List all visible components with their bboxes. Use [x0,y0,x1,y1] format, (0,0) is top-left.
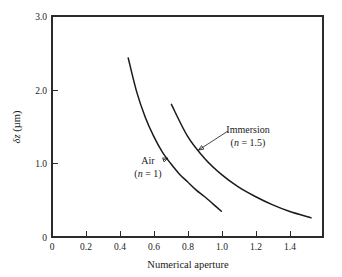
x-tick-label-2: 0.4 [114,242,126,252]
y-axis-ticks [52,16,58,237]
air-annotation-sublabel: (n = 1) [134,168,161,180]
x-tick-label-6: 1.2 [250,242,262,252]
air-annotation: Air (n = 1) [134,155,161,180]
y-tick-label-2: 2.0 [35,86,47,96]
y-axis-title: δz (µm) [11,110,23,143]
x-tick-label-3: 0.6 [148,242,160,252]
x-tick-label-5: 1.0 [216,242,228,252]
svg-text:δz (µm): δz (µm) [11,110,23,143]
x-tick-label-4: 0.8 [182,242,194,252]
plot-frame [52,16,323,237]
x-axis-title: Numerical aperture [147,259,229,270]
x-axis-ticks [52,231,290,237]
y-axis-title-unit: (µm) [11,110,23,134]
y-tick-label-0: 0 [42,233,47,243]
y-tick-label-3: 3.0 [35,12,47,22]
air-annotation-label: Air [141,155,155,166]
curve-air [128,58,221,211]
curve-immersion [171,104,311,217]
immersion-annotation-sublabel: (n = 1.5) [231,137,266,149]
chart-page: 0 0.2 0.4 0.6 0.8 1.0 1.2 1.4 0 1.0 2.0 … [0,0,342,277]
y-tick-label-1: 1.0 [35,159,47,169]
data-curves [128,58,311,218]
numerical-aperture-depth-chart: 0 0.2 0.4 0.6 0.8 1.0 1.2 1.4 0 1.0 2.0 … [0,0,342,277]
x-tick-label-7: 1.4 [284,242,296,252]
plot-box [52,16,323,237]
y-axis-tick-labels: 0 1.0 2.0 3.0 [35,12,47,243]
immersion-leader-arrowhead [199,146,204,150]
immersion-annotation: Immersion (n = 1.5) [226,124,269,149]
x-axis-tick-labels: 0 0.2 0.4 0.6 0.8 1.0 1.2 1.4 [50,242,297,252]
immersion-annotation-label: Immersion [226,124,269,135]
x-tick-label-1: 0.2 [80,242,92,252]
x-tick-label-0: 0 [50,242,55,252]
